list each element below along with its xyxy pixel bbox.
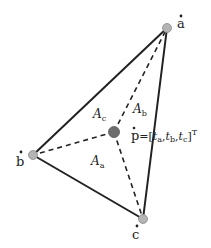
vertex-b <box>29 151 38 160</box>
svg-text:p=[ta,tb,tc]T: p=[ta,tb,tc]T <box>131 128 198 144</box>
area-label-a-a: Aa <box>90 154 105 170</box>
label-a: a <box>177 15 185 31</box>
dashed-p-c <box>114 132 143 219</box>
svg-text:Ac: Ac <box>92 107 107 123</box>
svg-text:c: c <box>132 227 139 242</box>
dashed-p-a <box>114 28 167 132</box>
svg-text:b: b <box>16 154 24 169</box>
label-b: b <box>16 151 24 169</box>
edge-b-c <box>33 155 143 219</box>
vertex-c <box>139 215 148 224</box>
svg-text:Aa: Aa <box>90 154 105 170</box>
svg-text:Ab: Ab <box>132 102 147 118</box>
vertex-a <box>163 24 172 33</box>
area-label-a-b: Ab <box>132 102 147 118</box>
barycentric-triangle-diagram: a b c Ac Ab Aa p=[ta,tb,tc]T <box>0 0 211 248</box>
edge-c-a <box>143 28 167 219</box>
point-p-formula: p=[ta,tb,tc]T <box>131 127 198 144</box>
label-c: c <box>132 225 139 242</box>
area-label-a-c: Ac <box>92 107 107 123</box>
interior-point-p <box>109 127 120 138</box>
svg-text:a: a <box>177 16 185 31</box>
